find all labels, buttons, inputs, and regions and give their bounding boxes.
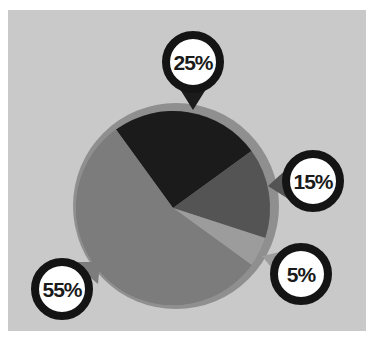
badge-55: 55% <box>35 262 89 316</box>
badge-label-55: 55% <box>42 278 82 301</box>
badge-25: 25% <box>166 35 220 89</box>
badge-5: 5% <box>274 247 328 301</box>
badge-label-15: 15% <box>293 170 333 193</box>
badge-label-5: 5% <box>287 263 317 286</box>
badge-15: 15% <box>286 154 340 208</box>
pie-chart: 25% 15% 5% 55% <box>0 0 372 341</box>
badge-label-25: 25% <box>173 51 213 74</box>
pie-slices <box>76 111 270 305</box>
